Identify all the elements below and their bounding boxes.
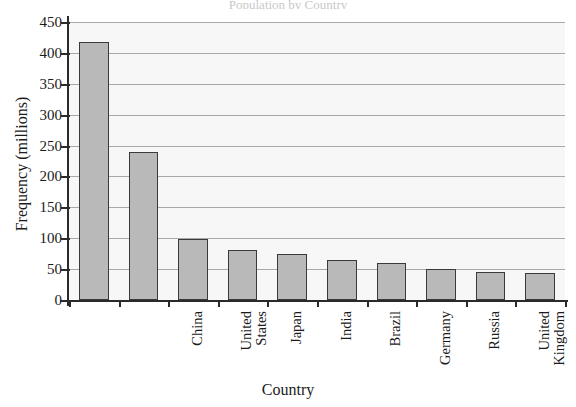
bar — [277, 254, 307, 300]
chart-figure: Population by Country Frequency (million… — [0, 0, 576, 407]
y-tick-label: 300 — [18, 107, 62, 122]
plot-area — [69, 22, 565, 300]
y-tick-label: 0 — [18, 293, 62, 308]
y-tick-mark — [61, 238, 70, 240]
bar — [228, 250, 258, 300]
bar — [79, 42, 109, 300]
bar — [377, 263, 407, 300]
x-tick-mark — [69, 300, 71, 307]
y-tick-label: 100 — [18, 231, 62, 246]
bar — [476, 272, 506, 300]
y-tick-label: 200 — [18, 169, 62, 184]
y-tick-mark — [61, 146, 70, 148]
x-tick-mark — [466, 300, 468, 307]
x-category-label: Germany — [317, 311, 367, 325]
y-tick-label: 450 — [18, 15, 62, 30]
y-tick-mark — [61, 269, 70, 271]
y-tick-mark — [61, 22, 70, 24]
x-category-label: United States — [119, 311, 169, 325]
y-tick-mark — [61, 84, 70, 86]
x-axis-line — [60, 300, 568, 302]
chart-title-remnant: Population by Country — [0, 0, 576, 9]
gridline — [69, 53, 565, 54]
y-tick-label: 150 — [18, 200, 62, 215]
x-tick-mark — [168, 300, 170, 307]
x-category-label: China — [69, 311, 119, 325]
x-tick-mark — [119, 300, 121, 307]
x-category-label: Brazil — [267, 311, 317, 325]
y-tick-mark — [61, 176, 70, 178]
gridline — [69, 115, 565, 116]
gridline — [69, 22, 565, 23]
y-tick-mark — [61, 207, 70, 209]
x-tick-mark — [367, 300, 369, 307]
y-tick-label: 400 — [18, 45, 62, 60]
y-tick-label: 350 — [18, 76, 62, 91]
x-category-label: India — [218, 311, 268, 325]
y-tick-mark — [61, 53, 70, 55]
x-tick-mark — [515, 300, 517, 307]
y-axis-tick-labels: 050100150200250300350400450 — [18, 14, 62, 306]
gridline — [69, 84, 565, 85]
x-category-label: United Kingdom — [416, 311, 466, 325]
x-tick-mark — [218, 300, 220, 307]
y-tick-label: 50 — [18, 262, 62, 277]
x-category-label: France — [466, 311, 516, 325]
bar — [129, 152, 159, 300]
x-tick-mark — [565, 300, 567, 307]
gridline — [69, 146, 565, 147]
x-category-label: Nigeria — [515, 311, 565, 325]
y-axis-line — [67, 16, 69, 306]
bar — [178, 239, 208, 300]
x-tick-mark — [267, 300, 269, 307]
y-tick-label: 250 — [18, 138, 62, 153]
x-tick-mark — [317, 300, 319, 307]
y-tick-mark — [61, 115, 70, 117]
bar — [426, 269, 456, 301]
bar — [525, 273, 555, 300]
x-category-label: Japan — [168, 311, 218, 325]
x-category-label: Russia — [367, 311, 417, 325]
x-tick-mark — [416, 300, 418, 307]
bar — [327, 260, 357, 300]
